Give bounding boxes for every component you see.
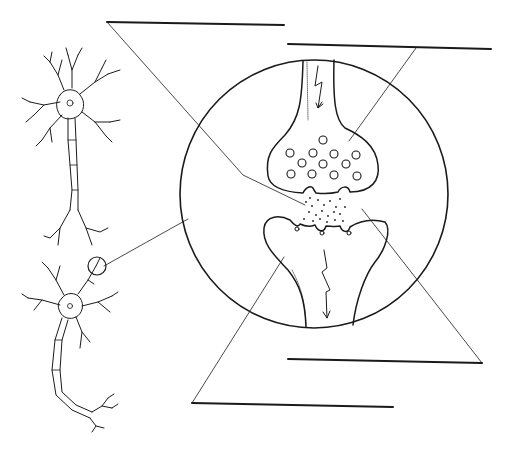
label-slot-1 [110,6,284,20]
cell-body-lower [58,294,82,319]
synaptic-vesicles [286,136,361,180]
label-slot-4 [196,387,393,401]
label-line-2 [288,44,491,49]
synapse-location-marker [88,257,106,275]
leader-line-4 [192,257,284,403]
synapse-diagram [0,0,511,453]
neurotransmitter-dots [303,197,346,223]
postsynaptic-dendrite [264,217,388,327]
label-line-4 [192,403,393,407]
axon-terminal [267,60,378,194]
label-line-1 [107,22,284,25]
impulse-arrow-bottom [322,250,330,318]
label-line-3 [288,359,482,363]
label-slot-3 [292,343,482,357]
leader-line-2 [349,48,416,141]
neuron-drawing [22,48,120,432]
magnification-circle [180,60,448,328]
axon-upper [68,118,78,210]
label-slot-2 [292,28,491,42]
axon-lower [52,318,92,418]
diagram-canvas [0,0,511,453]
leader-line-3 [362,209,482,363]
leader-line-magnify [104,219,188,266]
